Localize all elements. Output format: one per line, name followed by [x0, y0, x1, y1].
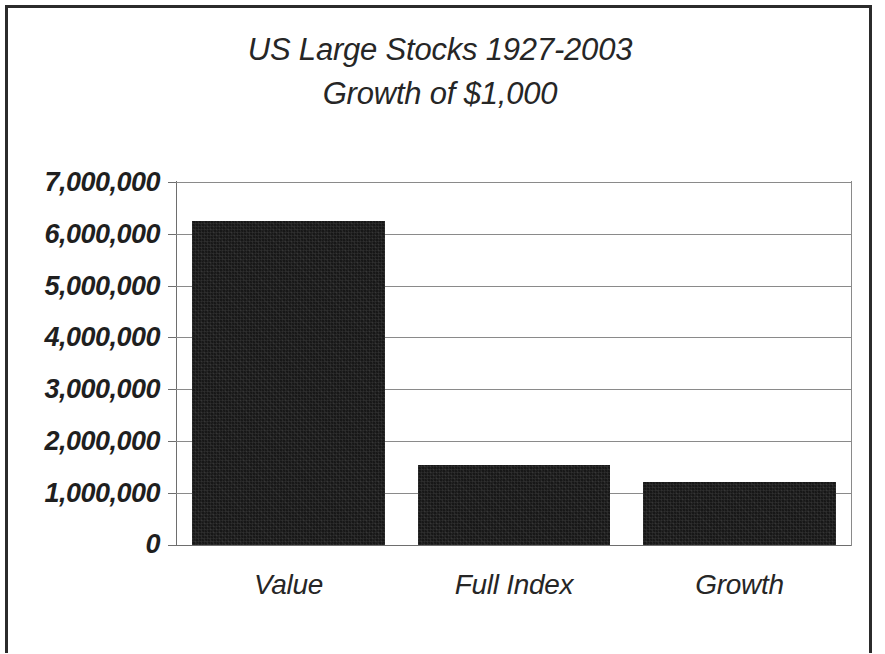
bar-full-index: [418, 465, 610, 545]
chart-title: US Large Stocks 1927-2003 Growth of $1,0…: [60, 28, 820, 116]
plot-right-border: [851, 181, 852, 546]
chart-title-line-2: Growth of $1,000: [60, 72, 820, 116]
y-axis-tick-label: 1,000,000: [10, 480, 160, 507]
y-axis-tick-label: 5,000,000: [10, 273, 160, 300]
axis-baseline: [176, 545, 851, 546]
bar-growth: [643, 482, 836, 545]
y-axis-tick-label: 2,000,000: [10, 428, 160, 455]
x-axis-label-growth: Growth: [643, 568, 836, 602]
gridline: [176, 182, 851, 183]
chart-screenshot: US Large Stocks 1927-2003 Growth of $1,0…: [0, 0, 885, 654]
y-axis-tick-label: 7,000,000: [10, 169, 160, 196]
bar-value: [192, 221, 385, 545]
chart-title-line-1: US Large Stocks 1927-2003: [248, 32, 632, 67]
plot-area: [176, 182, 851, 545]
x-axis-label-full-index: Full Index: [418, 568, 610, 602]
y-axis-tick-label: 4,000,000: [10, 324, 160, 351]
y-axis-tick-label: 3,000,000: [10, 376, 160, 403]
y-axis-labels: 7,000,000 6,000,000 5,000,000 4,000,000 …: [8, 0, 160, 654]
y-axis-tick-label: 0: [10, 531, 160, 558]
x-axis-label-value: Value: [192, 568, 385, 602]
y-axis-tick-label: 6,000,000: [10, 221, 160, 248]
